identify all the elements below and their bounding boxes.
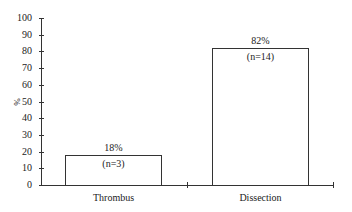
y-tick	[39, 85, 44, 86]
x-category-label: Dissection	[212, 192, 309, 203]
y-tick	[39, 152, 44, 153]
bar-value-label: 18%	[65, 142, 162, 153]
x-axis-tick	[187, 182, 188, 188]
y-tick	[39, 102, 44, 103]
y-tick-label: 90	[10, 30, 32, 40]
y-tick	[39, 118, 44, 119]
y-tick-label: 40	[10, 113, 32, 123]
bar-n-label: (n=14)	[212, 51, 309, 62]
y-tick	[39, 168, 44, 169]
y-tick-label: 80	[10, 46, 32, 56]
y-tick	[39, 35, 44, 36]
bar-dissection	[212, 48, 309, 186]
y-tick	[39, 68, 44, 69]
bar-n-label: (n=3)	[65, 158, 162, 169]
y-tick-label: 50	[10, 97, 32, 107]
y-tick	[39, 185, 44, 186]
x-category-label: Thrombus	[65, 192, 162, 203]
y-tick	[39, 18, 44, 19]
y-tick-label: 30	[10, 130, 32, 140]
y-tick-label: 100	[10, 13, 32, 23]
y-tick	[39, 51, 44, 52]
y-tick-label: 20	[10, 147, 32, 157]
y-tick-label: 10	[10, 163, 32, 173]
bar-value-label: 82%	[212, 35, 309, 46]
x-axis-tick	[333, 182, 334, 188]
y-tick-label: 0	[10, 180, 32, 190]
y-tick	[39, 135, 44, 136]
y-tick-label: 70	[10, 63, 32, 73]
y-tick-label: 60	[10, 80, 32, 90]
